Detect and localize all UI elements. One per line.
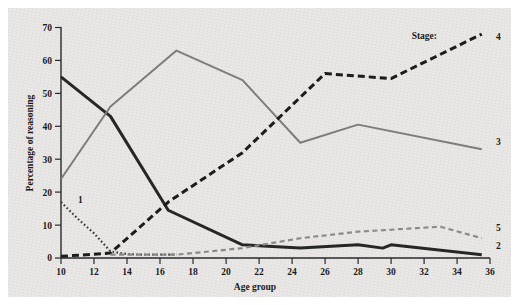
y-tick-label-70: 70 — [43, 23, 53, 33]
x-tick-label-16: 16 — [155, 267, 165, 277]
x-tick-label-10: 10 — [56, 267, 66, 277]
y-tick-label-60: 60 — [43, 56, 53, 66]
series-line-3 — [61, 51, 482, 179]
x-tick-label-24: 24 — [287, 267, 297, 277]
x-axis-tick-labels: 10 12 14 16 18 20 22 24 26 28 30 32 34 3… — [56, 267, 495, 277]
x-tick-label-26: 26 — [320, 267, 330, 277]
series-label-3: 3 — [496, 137, 501, 147]
y-tick-label-20: 20 — [43, 188, 53, 198]
y-tick-label-30: 30 — [43, 155, 53, 165]
y-tick-label-0: 0 — [47, 253, 52, 263]
x-tick-label-32: 32 — [419, 267, 429, 277]
x-tick-label-36: 36 — [485, 267, 495, 277]
series-line-5 — [111, 227, 482, 255]
series-label-2: 2 — [496, 241, 501, 251]
series-layer — [61, 34, 482, 256]
y-tick-label-10: 10 — [43, 221, 53, 231]
y-tick-label-40: 40 — [43, 122, 53, 132]
y-axis-ticks — [55, 28, 61, 259]
y-tick-label-50: 50 — [43, 89, 53, 99]
x-tick-label-20: 20 — [221, 267, 231, 277]
x-axis-title: Age group — [234, 282, 276, 292]
chart-page: 0 10 20 30 40 50 60 70 — [0, 0, 519, 305]
series-label-4: 4 — [496, 32, 501, 42]
series-line-4 — [61, 34, 482, 256]
series-label-1: 1 — [78, 195, 83, 205]
x-tick-label-12: 12 — [89, 267, 99, 277]
x-tick-label-30: 30 — [386, 267, 396, 277]
x-axis-ticks — [61, 258, 490, 264]
legend-title: Stage: — [412, 31, 437, 41]
x-tick-label-22: 22 — [254, 267, 264, 277]
x-tick-label-14: 14 — [122, 267, 132, 277]
x-tick-label-18: 18 — [188, 267, 198, 277]
y-axis-title: Percentage of reasoning — [25, 94, 35, 191]
series-label-5: 5 — [496, 223, 501, 233]
y-axis-tick-labels: 0 10 20 30 40 50 60 70 — [43, 23, 53, 264]
x-tick-label-28: 28 — [353, 267, 363, 277]
x-tick-label-34: 34 — [452, 267, 462, 277]
line-chart: 0 10 20 30 40 50 60 70 — [0, 0, 519, 305]
